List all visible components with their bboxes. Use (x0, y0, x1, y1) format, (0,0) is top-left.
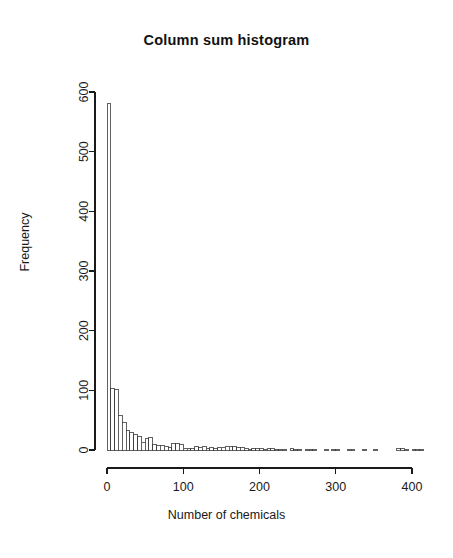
histogram-bar (305, 449, 309, 450)
y-axis-tick-label: 300 (77, 261, 91, 282)
histogram-bar (412, 449, 416, 450)
x-axis-tick-label: 100 (173, 480, 194, 494)
histogram-bar (218, 448, 222, 450)
histogram-bar (248, 449, 252, 450)
histogram-bar (138, 437, 142, 450)
histogram-bar (179, 445, 183, 450)
histogram-bar (397, 448, 401, 450)
y-axis-tick-label: 600 (77, 82, 91, 103)
histogram-bar (237, 448, 241, 450)
histogram-bar (214, 448, 218, 450)
histogram-bar (416, 449, 420, 450)
histogram-bar (130, 432, 134, 450)
histogram-bar (294, 449, 298, 450)
histogram-bars (107, 104, 423, 450)
histogram-bar (145, 439, 149, 450)
histogram-bar (126, 431, 130, 450)
histogram-bar (149, 437, 153, 450)
histogram-bar (263, 449, 267, 450)
histogram-bar (313, 449, 317, 450)
histogram-bar (374, 449, 378, 450)
histogram-bar (324, 449, 328, 450)
y-axis-tick-label: 100 (77, 380, 91, 401)
histogram-bar (172, 443, 176, 450)
histogram-bar (115, 389, 119, 450)
histogram-bar (191, 449, 195, 450)
histogram-bar (210, 447, 214, 450)
histogram-bar (290, 449, 294, 450)
histogram-bar (279, 449, 283, 450)
histogram-bar (107, 104, 111, 450)
histogram-bar (160, 446, 164, 450)
y-axis-tick-label: 0 (77, 446, 91, 453)
histogram-bar (347, 449, 351, 450)
x-axis-tick-label: 300 (325, 480, 346, 494)
histogram-bar (401, 448, 405, 450)
histogram-bar (157, 445, 161, 450)
histogram-bar (233, 446, 237, 450)
histogram-bar (111, 389, 115, 450)
y-axis-label: Frequency (18, 172, 32, 312)
histogram-bar (267, 449, 271, 450)
histogram-bar (168, 448, 172, 450)
histogram-bar (195, 446, 199, 450)
histogram-bar (221, 447, 225, 450)
histogram-bar (351, 449, 355, 450)
histogram-bar (244, 448, 248, 450)
y-axis-tick-label: 400 (77, 201, 91, 222)
x-axis-tick-label: 400 (402, 480, 423, 494)
histogram-bar (332, 449, 336, 450)
y-axis: 0100200300400500600 (77, 82, 95, 454)
histogram-bar (420, 449, 424, 450)
histogram-bar (240, 448, 244, 450)
histogram-bar (404, 449, 408, 450)
x-axis: 0100200300400 (104, 468, 423, 494)
histogram-bar (176, 443, 180, 450)
y-axis-tick-label: 200 (77, 320, 91, 341)
histogram-bar (309, 449, 313, 450)
histogram-bar (256, 449, 260, 450)
histogram-bar (229, 446, 233, 450)
x-axis-tick-label: 0 (104, 480, 111, 494)
histogram-bar (282, 449, 286, 450)
histogram-bar (336, 449, 340, 450)
histogram-bar (225, 446, 229, 450)
histogram-bar (206, 448, 210, 450)
histogram-bar (183, 448, 187, 450)
histogram-bar (118, 416, 122, 450)
histogram-bar (164, 446, 168, 450)
x-axis-tick-label: 200 (249, 480, 270, 494)
x-axis-label: Number of chemicals (0, 508, 453, 522)
histogram-bar (187, 448, 191, 450)
histogram-bar (134, 434, 138, 450)
histogram-plot: 0100200300400500600 0100200300400 (0, 0, 453, 558)
histogram-bar (122, 423, 126, 450)
histogram-bar (202, 446, 206, 450)
histogram-bar (260, 449, 264, 450)
histogram-bar (298, 449, 302, 450)
histogram-bar (271, 449, 275, 450)
histogram-bar (199, 447, 203, 450)
chart-figure: Column sum histogram 0100200300400500600… (0, 0, 453, 558)
histogram-bar (275, 449, 279, 450)
histogram-bar (153, 444, 157, 450)
histogram-bar (362, 449, 366, 450)
y-axis-tick-label: 500 (77, 141, 91, 162)
histogram-bar (141, 442, 145, 450)
histogram-bar (252, 449, 256, 450)
